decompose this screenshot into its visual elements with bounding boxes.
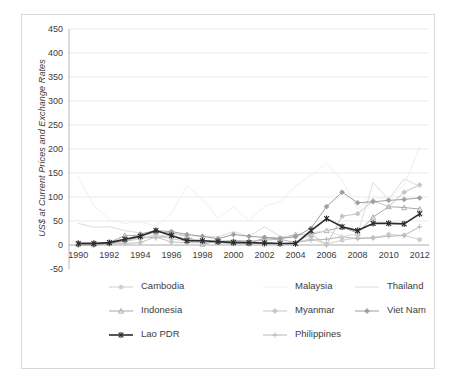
series-malaysia: [78, 147, 419, 226]
legend-marker-icon: [354, 279, 380, 291]
x-axis-tick-label: 1994: [130, 250, 150, 260]
chart-figure: US$ at Current Prices and Exchange Rates…: [21, 14, 435, 369]
legend-marker-icon: [108, 279, 134, 291]
y-axis-tick-label: 50: [53, 216, 63, 226]
x-axis-tick-label: 2004: [286, 250, 306, 260]
legend-item-lao-pdr[interactable]: Lao PDR: [108, 321, 180, 345]
x-axis-tick-label: 2010: [379, 250, 399, 260]
y-axis-tick-label: 250: [48, 120, 63, 130]
legend-item-cambodia[interactable]: Cambodia: [108, 273, 184, 297]
x-axis-tick-label: 2000: [223, 250, 243, 260]
legend-item-indonesia[interactable]: Indonesia: [108, 297, 182, 321]
x-axis-tick-label: 1996: [161, 250, 181, 260]
legend-item-myanmar[interactable]: Myanmar: [262, 297, 335, 321]
legend-marker-icon: [108, 327, 134, 339]
legend-row: IndonesiaMyanmarViet Nam: [22, 297, 434, 321]
y-axis-tick-label: 150: [48, 168, 63, 178]
x-axis-tick-label: 2008: [348, 250, 368, 260]
chart-legend: CambodiaMalaysiaThailandIndonesiaMyanmar…: [22, 273, 434, 368]
legend-marker-icon: [354, 303, 380, 315]
y-axis-tick-label: 100: [48, 192, 63, 202]
legend-marker-icon: [262, 303, 288, 315]
legend-item-viet-nam[interactable]: Viet Nam: [354, 297, 426, 321]
legend-item-thailand[interactable]: Thailand: [354, 273, 423, 297]
series-thailand: [78, 179, 419, 237]
x-axis-tick-label: 2012: [410, 250, 430, 260]
legend-marker-icon: [262, 279, 288, 291]
legend-label: Viet Nam: [387, 304, 426, 315]
legend-label: Indonesia: [141, 304, 182, 315]
y-axis-tick-label: 200: [48, 144, 63, 154]
x-axis-tick-label: 1990: [68, 250, 88, 260]
legend-label: Myanmar: [295, 304, 335, 315]
legend-label: Philippines: [295, 328, 341, 339]
y-axis-tick-label: 400: [48, 48, 63, 58]
legend-label: Malaysia: [295, 280, 333, 291]
legend-marker-icon: [108, 303, 134, 315]
y-axis-tick-label: 350: [48, 72, 63, 82]
legend-item-malaysia[interactable]: Malaysia: [262, 273, 333, 297]
y-axis-tick-label: 450: [48, 24, 63, 34]
x-axis-tick-label: 2002: [255, 250, 275, 260]
x-axis-tick-label: 1992: [99, 250, 119, 260]
x-axis-tick-label: 1998: [192, 250, 212, 260]
line-chart-plot: 450400350300250200150100500-501990199219…: [22, 15, 434, 315]
y-axis-tick-label: 0: [58, 240, 63, 250]
legend-label: Thailand: [387, 280, 423, 291]
legend-row: CambodiaMalaysiaThailand: [22, 273, 434, 297]
legend-label: Cambodia: [141, 280, 184, 291]
x-axis-tick-label: 2006: [317, 250, 337, 260]
y-axis-tick-label: 300: [48, 96, 63, 106]
legend-marker-icon: [262, 327, 288, 339]
legend-item-philippines[interactable]: Philippines: [262, 321, 341, 345]
legend-row: Lao PDRPhilippines: [22, 321, 434, 345]
legend-label: Lao PDR: [141, 328, 180, 339]
